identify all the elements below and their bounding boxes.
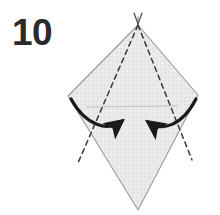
origami-figure: [0, 0, 220, 215]
apex-tick-right-icon: [138, 13, 142, 24]
apex-tick-left-icon: [134, 13, 138, 24]
origami-step-diagram: 10: [0, 0, 220, 215]
